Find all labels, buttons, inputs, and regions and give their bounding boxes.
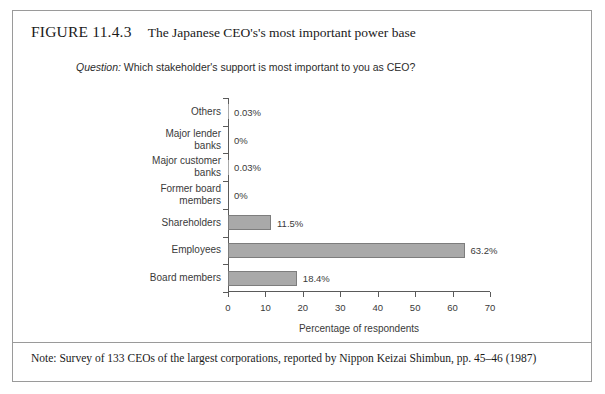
bar (228, 215, 271, 230)
x-axis-tick-label: 20 (298, 302, 309, 313)
x-axis-tick (265, 292, 266, 297)
x-axis-tick-label: 30 (335, 302, 346, 313)
bar-row: 0.03% (228, 160, 490, 175)
x-axis-tick-label: 60 (447, 302, 458, 313)
y-axis-tick (223, 237, 228, 238)
bar-row: 18.4% (228, 271, 490, 286)
y-axis-tick (223, 264, 228, 265)
y-axis-tick (223, 126, 228, 127)
bar-value-label: 11.5% (277, 217, 303, 228)
x-axis-tick-label: 40 (372, 302, 383, 313)
x-axis-tick (490, 292, 491, 297)
x-axis-tick-label: 50 (410, 302, 421, 313)
x-axis-tick-label: 0 (225, 302, 230, 313)
x-axis-tick-label: 10 (260, 302, 271, 313)
bar-value-label: 0% (234, 190, 248, 201)
category-label: Others (191, 106, 221, 118)
note-divider (13, 342, 591, 343)
y-axis-tick (223, 292, 228, 293)
bar-row: 0% (228, 188, 490, 203)
category-label: Shareholders (162, 217, 221, 229)
figure-note: Note: Survey of 133 CEOs of the largest … (31, 352, 536, 364)
y-axis-tick (223, 181, 228, 182)
category-label: Employees (172, 244, 221, 256)
y-axis-tick (223, 153, 228, 154)
x-axis-tick (228, 292, 229, 297)
x-axis-tick-label: 70 (485, 302, 496, 313)
bar-chart: OthersMajor lender banksMajor customer b… (13, 11, 591, 381)
x-axis-tick (303, 292, 304, 297)
bar-value-label: 18.4% (303, 273, 330, 284)
x-axis-tick (415, 292, 416, 297)
x-axis-tick (340, 292, 341, 297)
category-axis-labels: OthersMajor lender banksMajor customer b… (93, 98, 221, 292)
plot-area: 0102030405060700.03%0%0.03%0%11.5%63.2%1… (228, 98, 490, 292)
category-label: Former board members (160, 183, 221, 207)
category-label: Board members (150, 272, 221, 284)
bar-value-label: 0.03% (234, 162, 261, 173)
bar-row: 63.2% (228, 243, 490, 258)
x-axis-line (228, 291, 490, 292)
bar-row: 11.5% (228, 215, 490, 230)
bar-value-label: 0.03% (234, 106, 261, 117)
bar (228, 271, 297, 286)
y-axis-tick (223, 98, 228, 99)
y-axis-tick (223, 209, 228, 210)
category-label: Major customer banks (152, 155, 221, 179)
x-axis-tick (378, 292, 379, 297)
x-axis-title: Percentage of respondents (228, 323, 490, 334)
x-axis-tick (453, 292, 454, 297)
bar-value-label: 63.2% (471, 245, 498, 256)
bar-value-label: 0% (234, 134, 248, 145)
figure-frame: FIGURE 11.4.3 The Japanese CEO's's most … (12, 10, 592, 382)
category-label: Major lender banks (165, 128, 221, 152)
bar-row: 0% (228, 132, 490, 147)
bar (228, 243, 465, 258)
bar-row: 0.03% (228, 104, 490, 119)
